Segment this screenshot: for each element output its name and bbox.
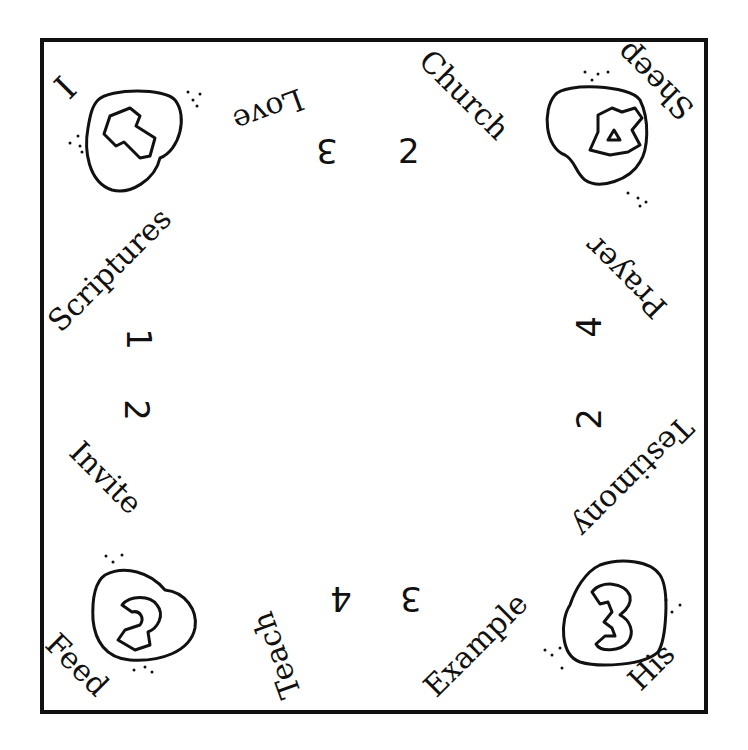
flap-number: 1 (122, 328, 156, 350)
flap-number: 3 (316, 134, 338, 168)
heart-icon (93, 570, 196, 660)
flap-number: 2 (120, 399, 154, 421)
flap-number: 4 (572, 316, 606, 338)
flap-number: 4 (330, 582, 352, 616)
flap-number: 3 (400, 582, 422, 616)
heart-icon (87, 91, 182, 191)
decorative-hearts (0, 0, 748, 750)
flap-number: 2 (572, 408, 606, 430)
flap-number: 2 (398, 134, 420, 168)
heart-icon (547, 87, 647, 184)
